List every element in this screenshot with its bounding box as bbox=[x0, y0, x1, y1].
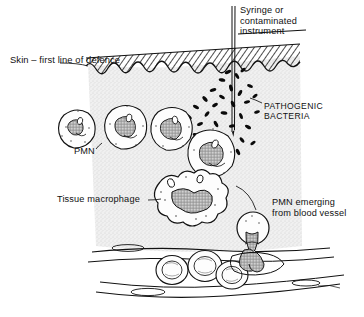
pmn-neutrophil-2 bbox=[105, 105, 147, 149]
illustration-canvas: Syringe or contaminated instrument Skin … bbox=[0, 0, 364, 317]
pmn-neutrophil-1 bbox=[59, 110, 96, 148]
label-pmn-emerging: PMN emerging from blood vessel bbox=[272, 197, 347, 218]
pmn-neutrophil-4 bbox=[188, 128, 235, 177]
label-tissue-macrophage: Tissue macrophage bbox=[57, 194, 140, 205]
red-blood-cell bbox=[156, 256, 188, 285]
label-skin: Skin – first line of defence bbox=[10, 55, 120, 66]
label-syringe: Syringe or contaminated instrument bbox=[240, 5, 297, 37]
immune-response-diagram bbox=[0, 0, 364, 317]
label-pathogenic-bacteria: PATHOGENIC BACTERIA bbox=[264, 101, 323, 121]
label-pmn: PMN bbox=[74, 146, 95, 157]
pmn-neutrophil-3 bbox=[151, 108, 192, 151]
red-blood-cells bbox=[156, 251, 248, 290]
